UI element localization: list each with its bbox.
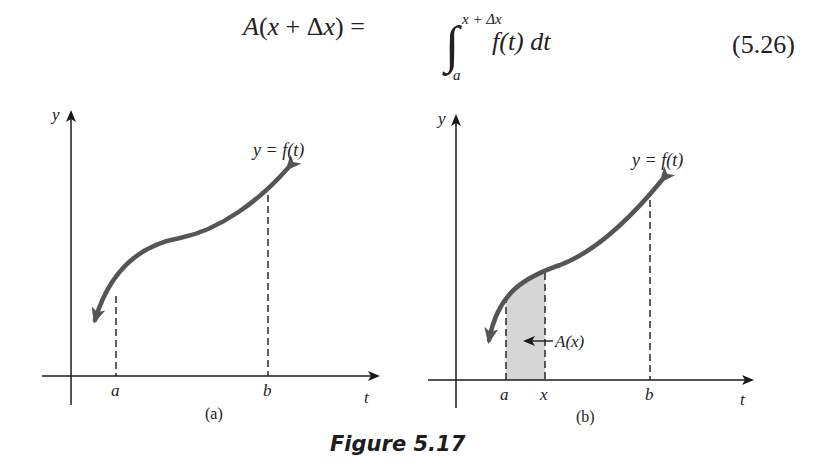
tick-label-x: x (539, 385, 548, 404)
figure-canvas: ∫ x + Δx a f(t) dt y t y = f(t) a b (a) … (0, 0, 836, 474)
t-axis-label: t (364, 388, 370, 407)
tick-label-b: b (645, 385, 654, 404)
equation-number: (5.26) (732, 30, 795, 60)
figure-caption: Figure 5.17 (330, 432, 465, 456)
tick-label-a: a (111, 381, 120, 400)
integrand: f(t) dt (492, 27, 551, 56)
tick-label-b: b (263, 381, 272, 400)
area-label: A(x) (554, 332, 585, 351)
curve-f (95, 168, 288, 320)
integral-lower-limit: a (453, 67, 461, 83)
panel-a: y t y = f(t) a b (a) (42, 105, 378, 423)
panel-label-b: (b) (576, 408, 595, 426)
curve-label: y = f(t) (630, 150, 683, 171)
y-axis-label: y (436, 109, 446, 128)
integral-sign: ∫ x + Δx a f(t) dt (442, 11, 551, 83)
t-axis-label: t (740, 390, 746, 409)
integral-upper-limit: x + Δx (461, 11, 502, 27)
y-axis-label: y (50, 105, 60, 124)
curve-label: y = f(t) (251, 140, 304, 161)
panel-b: y t y = f(t) A(x) a x b (b) (428, 109, 752, 426)
panel-label-a: (a) (205, 405, 223, 423)
tick-label-a: a (500, 385, 509, 404)
